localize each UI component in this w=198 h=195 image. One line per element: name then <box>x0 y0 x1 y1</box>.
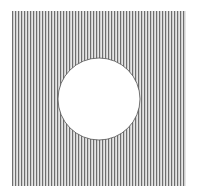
white-circle <box>58 58 140 140</box>
diagram-canvas <box>0 0 198 195</box>
hatched-square-with-circle-figure <box>0 0 198 195</box>
